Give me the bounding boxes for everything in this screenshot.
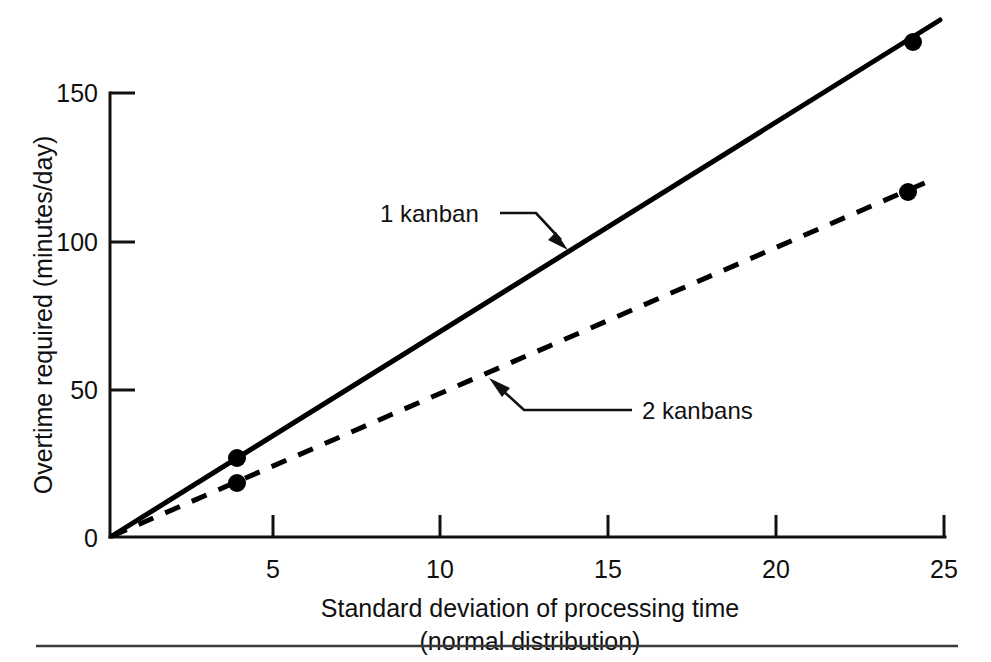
annotation-label-1-kanban: 1 kanban (380, 200, 479, 227)
chart-background (0, 0, 991, 662)
x-tick-label-15: 15 (594, 555, 622, 583)
x-tick-label-20: 20 (762, 555, 790, 583)
x-tick-label-25: 25 (930, 555, 958, 583)
x-axis-title-line2: (normal distribution) (420, 627, 641, 655)
annotation-label-2-kanbans: 2 kanbans (642, 397, 753, 424)
data-point-2-kanbans-high (899, 183, 917, 201)
y-tick-label-100: 100 (56, 228, 98, 256)
y-axis-title: Overtime required (minutes/day) (29, 136, 57, 494)
x-tick-label-10: 10 (426, 555, 454, 583)
data-point-1-kanban-low (228, 449, 246, 467)
overtime-vs-stddev-chart: 150 100 50 0 Overtime required (minutes/… (0, 0, 991, 662)
y-tick-label-50: 50 (70, 376, 98, 404)
x-tick-label-5: 5 (266, 555, 280, 583)
y-tick-label-150: 150 (56, 79, 98, 107)
data-point-2-kanbans-low (228, 474, 246, 492)
data-point-1-kanban-high (904, 33, 922, 51)
chart-figure: 150 100 50 0 Overtime required (minutes/… (0, 0, 991, 662)
y-tick-label-0: 0 (84, 524, 98, 552)
x-axis-title-line1: Standard deviation of processing time (321, 594, 739, 622)
